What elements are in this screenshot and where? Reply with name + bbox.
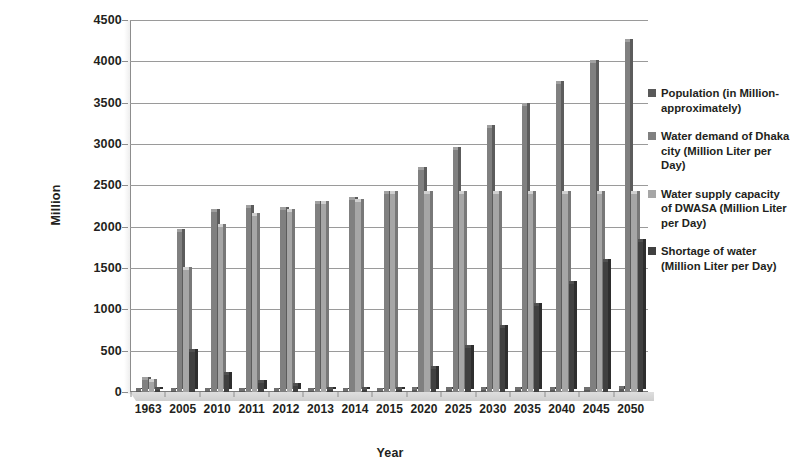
bar[interactable] xyxy=(349,200,354,392)
bar-group-1963 xyxy=(136,20,160,392)
bar-face xyxy=(343,391,348,392)
bar[interactable] xyxy=(224,375,229,392)
bar[interactable] xyxy=(211,212,216,392)
x-tick-label: 2020 xyxy=(410,402,437,416)
bar[interactable] xyxy=(362,390,367,392)
bar[interactable] xyxy=(638,242,643,392)
bar[interactable] xyxy=(343,391,348,392)
bar[interactable] xyxy=(315,204,320,392)
bar[interactable] xyxy=(258,383,263,392)
bar[interactable] xyxy=(597,194,602,392)
bar[interactable] xyxy=(424,194,429,392)
bar[interactable] xyxy=(590,63,595,392)
bar[interactable] xyxy=(453,150,458,392)
bar[interactable] xyxy=(308,391,313,392)
bar[interactable] xyxy=(556,84,561,392)
bar[interactable] xyxy=(171,391,176,392)
legend-item[interactable]: Shortage of water (Million Liter per Day… xyxy=(648,244,790,273)
x-tick-label: 1963 xyxy=(135,402,162,416)
legend-item[interactable]: Water supply capacity of DWASA (Million … xyxy=(648,187,790,231)
bar[interactable] xyxy=(252,216,257,392)
bar[interactable] xyxy=(390,194,395,392)
bar[interactable] xyxy=(562,194,567,392)
bar[interactable] xyxy=(274,391,279,392)
bar-group-2025 xyxy=(446,20,470,392)
bar[interactable] xyxy=(396,390,401,392)
bar[interactable] xyxy=(189,352,194,393)
bar-side-face xyxy=(608,259,611,389)
x-tick-label: 2013 xyxy=(307,402,334,416)
x-tick-mark xyxy=(165,392,166,397)
bar[interactable] xyxy=(465,348,470,392)
bar[interactable] xyxy=(534,306,539,392)
bar[interactable] xyxy=(459,194,464,392)
bar-side-face xyxy=(195,349,198,390)
bar[interactable] xyxy=(418,170,423,392)
bar[interactable] xyxy=(619,389,624,392)
y-tick-label: 0 xyxy=(64,385,122,399)
legend-swatch-water-supply xyxy=(648,190,656,198)
bar[interactable] xyxy=(500,328,505,392)
bar[interactable] xyxy=(625,42,630,392)
bar[interactable] xyxy=(493,194,498,392)
bar-side-face xyxy=(367,387,370,389)
bar-side-face xyxy=(395,191,398,389)
bar[interactable] xyxy=(293,386,298,392)
x-tick-mark xyxy=(131,392,132,397)
bar[interactable] xyxy=(584,390,589,392)
bar-chart: Million 05001000150020002500300035004000… xyxy=(0,0,793,476)
bar[interactable] xyxy=(183,270,188,392)
bar[interactable] xyxy=(321,204,326,392)
bar-side-face xyxy=(264,380,267,389)
bar[interactable] xyxy=(287,212,292,392)
bar[interactable] xyxy=(246,208,251,392)
bar-face xyxy=(205,391,210,392)
y-tick-mark xyxy=(122,103,128,104)
bar-face xyxy=(362,390,367,392)
x-tick-label: 2011 xyxy=(238,402,264,416)
bar[interactable] xyxy=(569,284,574,392)
bar[interactable] xyxy=(377,391,382,392)
x-tick-label: 2045 xyxy=(583,402,610,416)
bar[interactable] xyxy=(481,390,486,392)
bar[interactable] xyxy=(177,232,182,392)
bar[interactable] xyxy=(446,390,451,392)
bar-side-face xyxy=(402,387,405,389)
bar-face xyxy=(171,391,176,392)
bar[interactable] xyxy=(280,210,285,392)
bar[interactable] xyxy=(431,369,436,392)
bar[interactable] xyxy=(155,390,160,392)
bar-face xyxy=(274,391,279,392)
x-tick-mark xyxy=(613,392,614,397)
bar[interactable] xyxy=(327,390,332,392)
x-tick-label: 2030 xyxy=(479,402,506,416)
legend-item[interactable]: Water demand of Dhaka city (Million Lite… xyxy=(648,129,790,173)
bar[interactable] xyxy=(487,128,492,392)
bar[interactable] xyxy=(136,391,141,392)
bar[interactable] xyxy=(522,106,527,392)
legend-item[interactable]: Population (in Million- approximately) xyxy=(648,86,790,115)
bar-group-2045 xyxy=(584,20,608,392)
x-tick-mark xyxy=(441,392,442,397)
bar[interactable] xyxy=(149,382,154,392)
bar[interactable] xyxy=(550,390,555,392)
bar[interactable] xyxy=(631,194,636,392)
bar-face xyxy=(396,390,401,392)
bar[interactable] xyxy=(412,390,417,392)
y-tick-label: 1000 xyxy=(64,302,122,316)
bar[interactable] xyxy=(355,202,360,392)
bar[interactable] xyxy=(205,391,210,392)
y-tick-label: 500 xyxy=(64,344,122,358)
bar[interactable] xyxy=(603,262,608,392)
x-tick-mark xyxy=(337,392,338,397)
bar[interactable] xyxy=(218,227,223,392)
bar-group-2012 xyxy=(274,20,298,392)
bar[interactable] xyxy=(142,380,147,392)
y-tick-mark xyxy=(122,20,128,21)
bar[interactable] xyxy=(528,194,533,392)
bar[interactable] xyxy=(384,194,389,392)
bar[interactable] xyxy=(515,390,520,392)
bar[interactable] xyxy=(239,391,244,392)
legend-swatch-water-demand xyxy=(648,132,656,140)
x-tick-label: 2005 xyxy=(169,402,196,416)
